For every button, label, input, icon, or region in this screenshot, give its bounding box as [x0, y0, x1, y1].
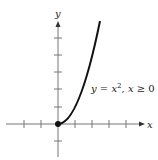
curve-label-eq: = [97, 83, 112, 94]
curve-label: y = x2, x ≥ 0 [90, 82, 155, 94]
curve-label-condition: ≥ 0 [134, 83, 155, 94]
parabola-curve [58, 21, 100, 124]
graph-figure: x y y = x2, x ≥ 0 [0, 0, 158, 160]
origin-point [55, 121, 61, 127]
x-axis-label: x [147, 119, 153, 130]
y-axis-label: y [54, 8, 61, 19]
x-axis: x [6, 119, 153, 130]
x-axis-arrow-icon [139, 122, 145, 127]
y-axis: y [54, 8, 62, 157]
y-axis-arrow-icon [56, 21, 61, 27]
